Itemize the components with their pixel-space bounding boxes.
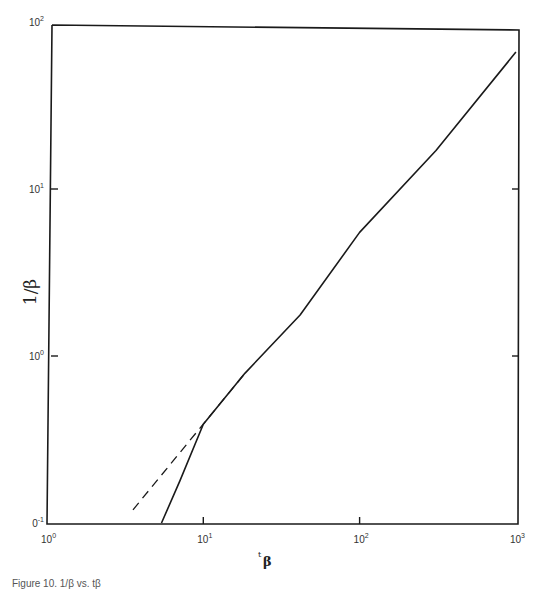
x-tick-label: 103 (510, 532, 525, 545)
y-tick-label: 100 (29, 349, 44, 362)
x-axis-label: β (263, 554, 272, 569)
y-tick-label: 102 (29, 15, 44, 28)
y-axis-ticks: 0-1100101102 (29, 15, 519, 529)
y-tick-label: 0-1 (32, 516, 44, 529)
y-axis-label: 1/β (20, 279, 40, 305)
x-tick-label: 101 (197, 532, 212, 545)
x-axis-label-superscript: t (258, 550, 262, 559)
x-tick-label: 102 (354, 532, 369, 545)
solid-curve-line (162, 52, 516, 523)
plot-frame (47, 25, 519, 524)
figure-caption: Figure 10. 1/β vs. tβ (12, 578, 101, 589)
x-tick-label: 100 (41, 532, 56, 545)
y-tick-label: 101 (29, 182, 44, 195)
x-axis-ticks: 100101102103 (41, 517, 525, 545)
dashed-asymptote-line (133, 373, 245, 510)
data-series (133, 52, 516, 523)
